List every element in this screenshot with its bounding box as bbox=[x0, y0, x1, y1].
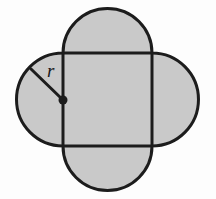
quatrefoil-outline-shape bbox=[17, 8, 199, 190]
center-point-dot bbox=[59, 96, 68, 105]
radius-label: r bbox=[47, 60, 55, 81]
figure-canvas: r bbox=[0, 0, 216, 199]
geometry-figure: r bbox=[0, 0, 216, 199]
